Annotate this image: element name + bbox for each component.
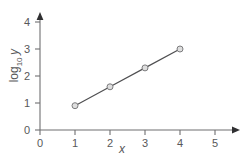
y-tick-label-0: 0 (16, 125, 30, 136)
x-axis-label: x (0, 143, 244, 155)
y-tick-label-4: 4 (16, 17, 30, 28)
figure-container: ) 0 1 (0, 0, 244, 158)
chart-plot-area (0, 0, 244, 158)
data-point-marker (107, 84, 113, 90)
x-axis-ticks (40, 130, 215, 135)
y-axis-label-variable: y (7, 49, 21, 55)
y-axis-arrow-icon (37, 12, 44, 20)
x-axis-arrow-icon (232, 127, 240, 134)
data-series-line (75, 49, 180, 106)
y-axis-label: log10 y (8, 35, 23, 97)
y-tick-label-1: 1 (16, 98, 30, 109)
y-axis-label-subscript: 10 (15, 57, 24, 66)
data-point-marker (177, 46, 183, 52)
y-axis-ticks (35, 22, 40, 130)
axes-group (37, 12, 240, 133)
data-point-marker (142, 65, 148, 71)
data-point-marker (72, 103, 78, 109)
y-axis-label-base: log (7, 66, 21, 82)
